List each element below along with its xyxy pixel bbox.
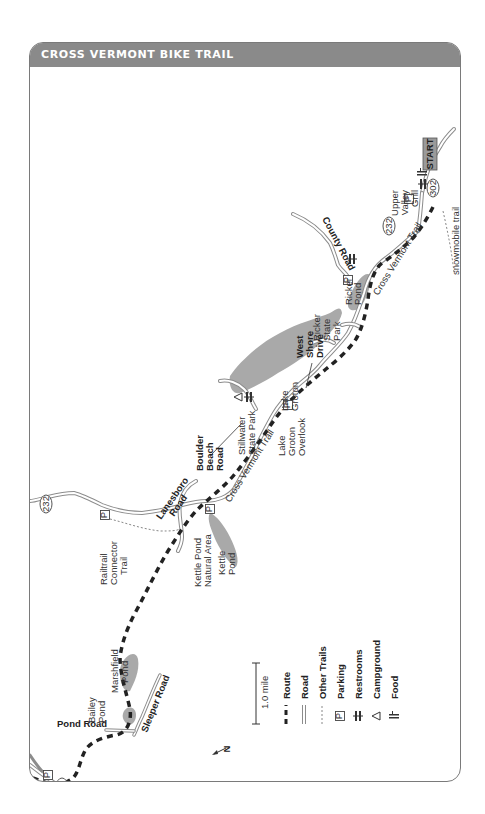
svg-text:Overlook: Overlook [296, 418, 307, 456]
map-frame: CROSS VERMONT BIKE TRAIL [29, 42, 461, 782]
svg-text:Other Trails: Other Trails [317, 646, 328, 699]
legend-other-trails: Other Trails [317, 646, 328, 724]
parking-icon: P [203, 505, 215, 514]
svg-text:Road: Road [214, 447, 225, 471]
svg-text:Park: Park [331, 321, 342, 341]
svg-text:P: P [203, 506, 214, 512]
shield-232-east: 232 [383, 217, 395, 235]
label-railtrail-connector: Railtrail Connector Trail [98, 541, 129, 585]
svg-text:232: 232 [40, 496, 51, 512]
svg-text:Campground: Campground [371, 640, 382, 699]
trail-map: 302 232 232 2 START P P P P P P [30, 43, 461, 782]
svg-text:Trail: Trail [118, 557, 129, 575]
svg-text:Restrooms: Restrooms [353, 649, 364, 699]
legend-restrooms: Restrooms [353, 649, 364, 721]
svg-text:Road: Road [299, 675, 310, 699]
svg-text:Food: Food [389, 676, 400, 699]
legend-route: Route [281, 672, 292, 724]
railtrail-connector-trail [110, 519, 180, 531]
start-marker: START [423, 138, 437, 170]
shield-2: 2 [56, 778, 68, 782]
shield-232-west: 232 [40, 495, 52, 513]
label-lake-groton: Lake Groton [279, 382, 300, 411]
svg-text:Natural Area: Natural Area [202, 533, 213, 587]
shield-302: 302 [427, 179, 439, 197]
svg-text:302: 302 [427, 180, 438, 196]
label-kettle-pond-natural-area: Kettle Pond Natural Area [192, 533, 213, 587]
label-snowmobile-trail: snowmobile trail [450, 207, 461, 275]
svg-text:232: 232 [383, 218, 394, 234]
svg-text:Pond: Pond [119, 661, 130, 683]
label-boulder-beach-road: Boulder Beach Road [194, 435, 225, 471]
svg-text:Route: Route [281, 672, 292, 699]
svg-text:Pond: Pond [226, 553, 237, 575]
parking-icon: P [98, 511, 110, 520]
legend-campground: Campground [371, 640, 382, 720]
svg-text:START: START [424, 138, 435, 169]
svg-text:Parking: Parking [335, 664, 346, 699]
legend-road: Road [299, 675, 310, 724]
svg-text:Grill: Grill [409, 190, 420, 207]
parking-icon: P [41, 771, 53, 780]
svg-text:1.0 mile: 1.0 mile [259, 676, 270, 709]
north-arrow: N [212, 745, 232, 755]
svg-text:P: P [41, 772, 52, 778]
campground-icon [234, 393, 242, 401]
label-kettle-pond: Kettle Pond [216, 551, 237, 575]
label-upper-valley-grill: Upper Valley Grill [389, 190, 420, 216]
svg-text:P: P [98, 512, 109, 518]
svg-text:Groton: Groton [289, 382, 300, 411]
label-lake-groton-overlook: Lake Groton Overlook [276, 418, 307, 456]
scale-bar: 1.0 mile [252, 663, 270, 724]
svg-text:N: N [221, 745, 232, 752]
legend-food: Food [389, 676, 400, 719]
label-lanesboro-road: Lanesboro Road [154, 475, 191, 521]
svg-text:Pond: Pond [352, 283, 363, 305]
svg-text:P: P [333, 713, 344, 719]
legend-parking: P Parking [333, 664, 346, 721]
label-pond-road: Pond Road [57, 718, 107, 729]
label-cross-vermont-trail-east: Cross Vermont Trail [370, 220, 424, 297]
svg-text:Drive: Drive [314, 334, 325, 358]
legend: Route Road Other Trails P Parking Restro… [281, 640, 400, 724]
